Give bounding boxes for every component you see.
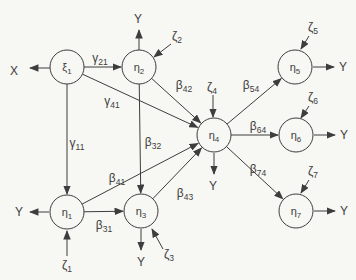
- external-label-y-eta3: Y: [137, 255, 145, 269]
- path-label-beta54: β54: [243, 78, 260, 94]
- external-label-y-eta7: Y: [340, 204, 348, 218]
- path-label-gamma41: γ41: [104, 94, 120, 110]
- path-label-gamma11: γ11: [70, 136, 85, 152]
- external-arrow-zeta7: [301, 180, 309, 193]
- path-label-beta43: β43: [177, 186, 194, 202]
- external-label-zeta6: ζ6: [308, 90, 318, 106]
- path-label-beta42: β42: [176, 78, 193, 94]
- external-label-zeta3: ζ3: [164, 247, 174, 263]
- external-arrow-zeta6: [301, 106, 309, 118]
- external-label-zeta7: ζ7: [308, 164, 318, 180]
- external-label-y-eta1: Y: [15, 205, 23, 219]
- path-label-beta41: β41: [109, 171, 126, 187]
- sem-figure: γ21γ11γ41β42β32β31β41β43β54β64β74XYζ2ζ4ζ…: [0, 0, 356, 280]
- external-label-zeta2: ζ2: [172, 29, 182, 45]
- external-arrow-zeta3: [152, 229, 163, 249]
- sem-path-diagram: γ21γ11γ41β42β32β31β41β43β54β64β74XYζ2ζ4ζ…: [0, 0, 356, 280]
- external-label-y-eta5: Y: [339, 60, 347, 74]
- path-arrow-beta31: [84, 211, 123, 212]
- external-arrow-zeta5: [301, 36, 309, 49]
- external-label-zeta1: ζ1: [62, 258, 72, 274]
- path-label-gamma21: γ21: [92, 51, 108, 67]
- external-label-y-eta6: Y: [340, 128, 348, 142]
- external-label-zeta5: ζ5: [308, 20, 318, 36]
- path-label-beta74: β74: [250, 162, 267, 178]
- external-arrow-zeta2: [154, 44, 171, 57]
- external-label-zeta4: ζ4: [207, 80, 217, 96]
- external-label-y-eta2: Y: [134, 12, 142, 26]
- path-label-beta64: β64: [250, 119, 267, 135]
- path-label-beta31: β31: [96, 218, 113, 234]
- external-label-y-eta4: Y: [209, 179, 217, 193]
- external-label-x-xi1: X: [10, 64, 18, 78]
- path-label-beta32: β32: [145, 135, 162, 151]
